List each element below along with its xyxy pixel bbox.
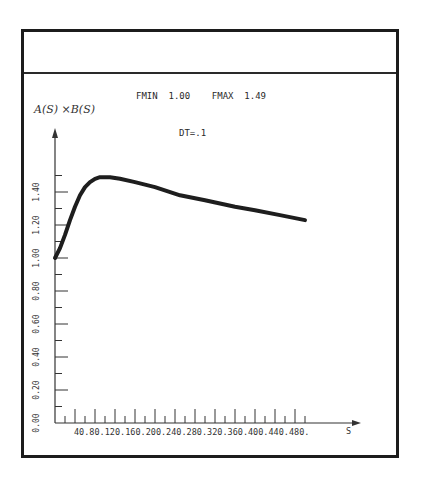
- chart-title: FMIN 1.00 FMAX 1.49: [136, 91, 266, 101]
- y-tick-label: 0.60: [32, 314, 41, 333]
- dt-label: DT=.1: [179, 128, 206, 138]
- x-axis-label: S: [346, 426, 351, 436]
- y-tick-label: 1.20: [32, 215, 41, 234]
- y-tick-label: 0.40: [32, 347, 41, 366]
- y-axis-label: A(S) ×B(S): [33, 103, 95, 116]
- y-tick-label: 0.20: [32, 380, 41, 399]
- x-tick-labels: 40.80.120.160.200.240.280.320.360.400.44…: [74, 427, 309, 437]
- y-tick-label: 0.80: [32, 281, 41, 300]
- data-curve: [55, 177, 305, 258]
- y-axis-ticks: 0.000.200.400.600.801.001.201.40: [32, 176, 68, 433]
- y-tick-label: 0.00: [32, 413, 41, 432]
- axes: [52, 128, 361, 426]
- y-tick-label: 1.40: [32, 182, 41, 201]
- y-tick-label: 1.00: [32, 248, 41, 267]
- chart-canvas: FMIN 1.00 FMAX 1.49 DT=.1 A(S) ×B(S) S 0…: [0, 0, 422, 479]
